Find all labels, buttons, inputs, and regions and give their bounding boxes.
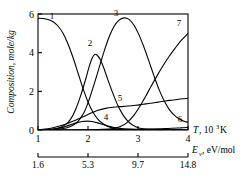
y-axis-ticks [38, 14, 42, 130]
curve-7 [38, 33, 188, 130]
y-axis-label: Composition, mole/kg [6, 30, 16, 114]
x-axis-tick-labels: 1234 [36, 133, 191, 144]
secondary-axis-tick-labels: 1.65.39.714.8 [32, 160, 197, 170]
chart-svg: 0246 1234 1234567 Composition, mole/kg T… [0, 0, 248, 186]
secondary-tick-label: 1.6 [32, 160, 44, 170]
curve-label-2: 2 [88, 38, 93, 48]
curve-label-7: 7 [177, 18, 182, 28]
curve-label-1: 1 [50, 11, 55, 21]
x-tick-label: 2 [86, 133, 91, 144]
secondary-tick-label: 9.7 [132, 160, 144, 170]
y-tick-label: 2 [29, 86, 34, 97]
curve-label-5: 5 [118, 93, 123, 103]
x-axis-label-unit-tail: K [220, 125, 227, 135]
x-axis-label-exponent: 3 [216, 123, 219, 130]
curves-group [38, 18, 188, 130]
x-tick-label: 3 [136, 133, 141, 144]
x-axis-label: T , 10 3 K [193, 123, 227, 135]
secondary-axis-label-unit: , eV/mol [202, 145, 236, 155]
y-tick-label: 6 [29, 9, 34, 20]
y-tick-label: 0 [29, 125, 34, 136]
secondary-tick-label: 14.8 [180, 160, 197, 170]
x-tick-label: 4 [186, 133, 191, 144]
curve-2 [38, 54, 188, 130]
y-tick-label: 4 [29, 47, 34, 58]
x-axis-label-unit: , 10 [199, 125, 214, 135]
composition-temperature-chart: 0246 1234 1234567 Composition, mole/kg T… [0, 0, 248, 186]
y-axis-tick-labels: 0246 [29, 9, 34, 136]
curve-label-4: 4 [104, 112, 109, 122]
x-tick-label: 1 [36, 133, 41, 144]
secondary-tick-label: 5.3 [82, 160, 94, 170]
curve-label-3: 3 [114, 8, 119, 18]
secondary-axis-label-base: E [191, 145, 198, 155]
curve-label-6: 6 [178, 114, 183, 124]
plot-frame [38, 14, 188, 130]
curve-3 [38, 18, 188, 130]
secondary-axis-ticks [38, 153, 188, 157]
secondary-axis-label: E v , eV/mol [191, 145, 236, 157]
curve-1 [38, 18, 188, 130]
